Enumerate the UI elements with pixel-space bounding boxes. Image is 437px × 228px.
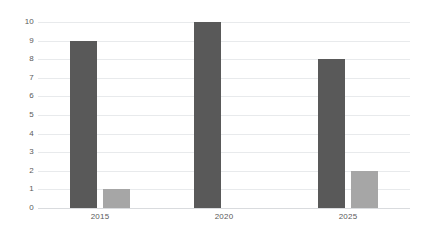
y-tick-label: 9 (4, 37, 34, 45)
y-tick-label: 7 (4, 74, 34, 82)
plot-area (38, 22, 410, 208)
bar[interactable] (194, 22, 221, 208)
x-tick-label: 2025 (339, 212, 358, 221)
y-tick-label: 10 (4, 18, 34, 26)
y-tick-label: 6 (4, 92, 34, 100)
y-tick-label: 2 (4, 167, 34, 175)
bar-group (194, 22, 254, 208)
y-tick-label: 8 (4, 55, 34, 63)
x-axis: 201520202025 (38, 212, 410, 228)
y-tick-label: 5 (4, 111, 34, 119)
bar[interactable] (351, 171, 378, 208)
axis-baseline (38, 208, 410, 209)
bar-group (318, 22, 378, 208)
y-axis: 109876543210 (0, 22, 34, 208)
bar[interactable] (318, 59, 345, 208)
bar[interactable] (70, 41, 97, 208)
bar[interactable] (103, 189, 130, 208)
bar-group (70, 22, 130, 208)
x-tick-label: 2015 (91, 212, 110, 221)
y-tick-label: 3 (4, 148, 34, 156)
y-tick-label: 0 (4, 204, 34, 212)
y-tick-label: 4 (4, 130, 34, 138)
bar-chart: 109876543210 201520202025 (0, 0, 437, 228)
y-tick-label: 1 (4, 185, 34, 193)
x-tick-label: 2020 (215, 212, 234, 221)
